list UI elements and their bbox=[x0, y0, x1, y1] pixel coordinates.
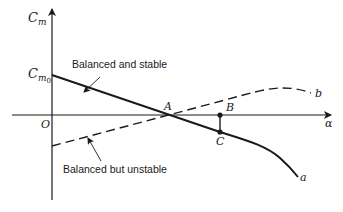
point-b-label: B bbox=[225, 101, 234, 114]
point-c-marker bbox=[217, 129, 222, 134]
y-axis-label: Cm bbox=[28, 10, 47, 27]
curve-b-label: b bbox=[315, 87, 322, 100]
stable-annotation: Balanced and stable bbox=[72, 58, 167, 70]
point-c-label: C bbox=[216, 135, 225, 148]
curve-b-unstable bbox=[52, 88, 311, 146]
unstable-annotation: Balanced but unstable bbox=[63, 163, 167, 175]
point-a-label: A bbox=[163, 100, 172, 113]
x-axis-label: α bbox=[325, 117, 333, 130]
intercept-label: Cm0 bbox=[28, 66, 51, 85]
moment-coefficient-diagram: Cm Cm0 O α A B C a b Balanced and stable… bbox=[0, 0, 343, 212]
unstable-pointer-arrow bbox=[88, 138, 101, 161]
origin-label: O bbox=[41, 118, 50, 131]
curve-a-label: a bbox=[300, 171, 307, 184]
point-b-marker bbox=[217, 112, 222, 117]
